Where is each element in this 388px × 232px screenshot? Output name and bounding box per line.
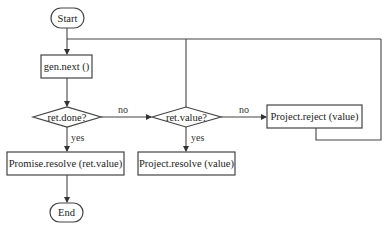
start-label: Start <box>58 13 78 24</box>
ret-done-label: ret.done? <box>48 112 87 123</box>
project-resolve-label: Project.resolve (value) <box>139 158 235 170</box>
node-ret-value: ret.value? <box>152 107 221 127</box>
node-start: Start <box>51 8 84 28</box>
promise-resolve-label: Promise.resolve (ret.value) <box>9 158 123 170</box>
ret-value-no-label: no <box>239 104 249 115</box>
ret-done-no-label: no <box>118 104 128 115</box>
flowchart-canvas: Start gen.next () ret.done? ret.value? P… <box>0 0 388 232</box>
ret-done-yes-label: yes <box>71 132 84 143</box>
node-ret-done: ret.done? <box>33 107 101 127</box>
project-reject-label: Project.reject (value) <box>270 111 359 123</box>
node-gen-next: gen.next () <box>41 55 92 78</box>
node-promise-resolve: Promise.resolve (ret.value) <box>7 152 124 175</box>
node-project-reject: Project.reject (value) <box>267 105 362 128</box>
end-label: End <box>58 207 76 218</box>
ret-value-label: ret.value? <box>166 112 207 123</box>
node-project-resolve: Project.resolve (value) <box>138 152 235 175</box>
node-end: End <box>50 203 83 222</box>
gen-next-label: gen.next () <box>44 61 90 73</box>
ret-value-yes-label: yes <box>191 132 204 143</box>
